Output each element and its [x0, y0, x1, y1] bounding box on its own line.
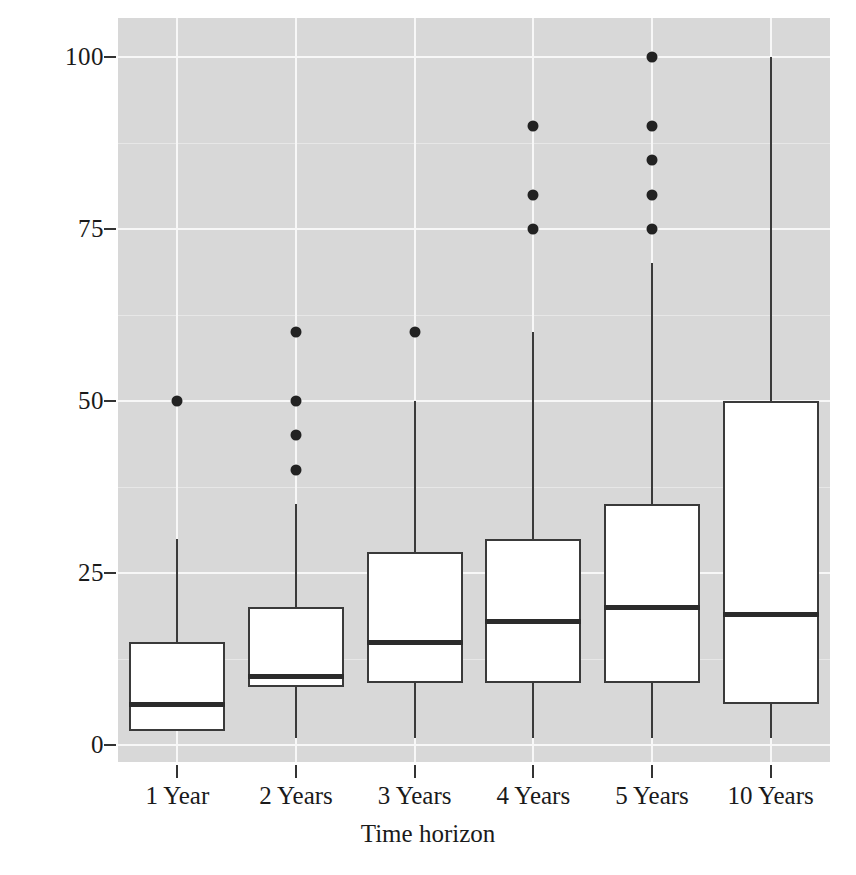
y-axis-tick-label: 50 — [14, 387, 104, 415]
y-axis-tick-mark — [104, 744, 116, 746]
x-axis-tick-mark — [295, 765, 297, 778]
x-axis-tick-label: 2 Years — [259, 782, 333, 810]
x-axis-tick-mark — [532, 765, 534, 778]
plot-panel — [118, 18, 830, 762]
y-axis-tick-label: 100 — [14, 43, 104, 71]
x-axis-tick-mark — [414, 765, 416, 778]
x-axis-title: Time horizon — [0, 820, 856, 848]
y-axis-tick-mark — [104, 400, 116, 402]
boxplot-group — [118, 18, 830, 762]
y-axis-tick-label: 0 — [14, 731, 104, 759]
x-axis-tick-label: 10 Years — [728, 782, 814, 810]
y-axis-tick-mark — [104, 228, 116, 230]
x-axis-tick-mark — [770, 765, 772, 778]
x-axis-tick-mark — [651, 765, 653, 778]
x-axis-tick-label: 5 Years — [615, 782, 689, 810]
y-axis-tick-mark — [104, 572, 116, 574]
x-axis-tick-mark — [176, 765, 178, 778]
whisker-lower — [770, 704, 772, 738]
boxplot-figure: Days to prefer long-term option 02550751… — [0, 0, 856, 875]
box-iqr — [723, 401, 819, 704]
y-axis-tick-label: 25 — [14, 559, 104, 587]
whisker-upper — [770, 57, 772, 401]
y-axis-tick-label: 75 — [14, 215, 104, 243]
x-axis-tick-label: 4 Years — [497, 782, 571, 810]
y-axis-tick-mark — [104, 56, 116, 58]
x-axis-tick-label: 3 Years — [378, 782, 452, 810]
median-line — [723, 612, 819, 617]
x-axis-tick-label: 1 Year — [145, 782, 209, 810]
